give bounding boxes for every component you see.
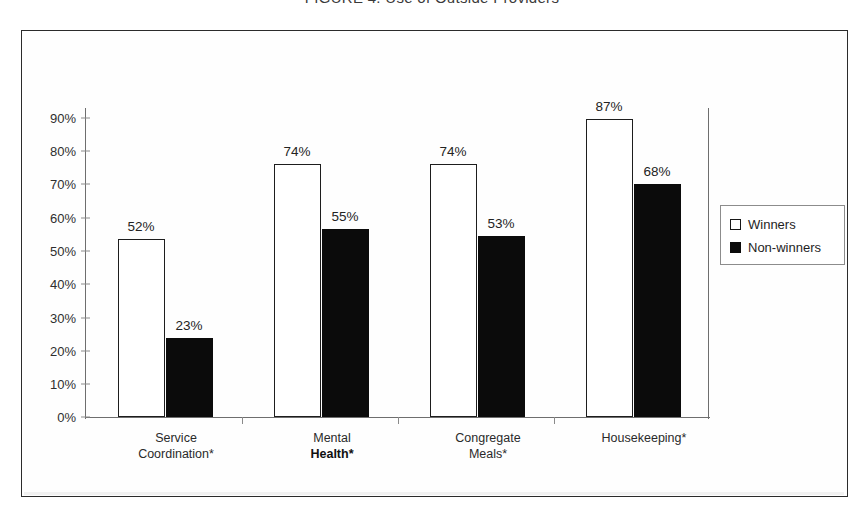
y-tick-label-30: 30% bbox=[30, 311, 76, 326]
y-tick-label-10: 10% bbox=[30, 377, 76, 392]
legend-label-nonwinners: Non-winners bbox=[748, 240, 821, 255]
bar-value-nonwinners-congregate-meals: 53% bbox=[466, 216, 536, 231]
bar-value-nonwinners-housekeeping: 68% bbox=[622, 164, 692, 179]
y-tick-label-50: 50% bbox=[30, 244, 76, 259]
bar-winners-mental-health[interactable] bbox=[274, 164, 321, 417]
y-tick-label-0: 0% bbox=[30, 410, 76, 425]
x-tick-mark-1 bbox=[242, 417, 243, 424]
y-tick-label-70: 70% bbox=[30, 177, 76, 192]
white-square-icon bbox=[730, 219, 741, 230]
figure-title: FIGURE 4. Use of Outside Providers bbox=[0, 0, 864, 6]
bar-value-winners-housekeeping: 87% bbox=[574, 99, 644, 114]
x-tick-mark-3 bbox=[554, 417, 555, 424]
x-category-label-line2: Meals* bbox=[398, 446, 578, 462]
x-category-label-line2: Health* bbox=[242, 446, 422, 462]
y-tick-label-90: 90% bbox=[30, 111, 76, 126]
y-tick-mark-90 bbox=[81, 118, 90, 119]
y-tick-label-40: 40% bbox=[30, 277, 76, 292]
chart-legend: Winners Non-winners bbox=[720, 205, 845, 265]
y-tick-mark-30 bbox=[81, 318, 90, 319]
x-category-label-line1: Service bbox=[86, 430, 266, 446]
bar-winners-congregate-meals[interactable] bbox=[430, 164, 477, 417]
scan-artifact bbox=[24, 492, 844, 495]
bar-nonwinners-mental-health[interactable] bbox=[322, 229, 369, 417]
x-tick-mark-2 bbox=[398, 417, 399, 424]
bar-value-winners-mental-health: 74% bbox=[262, 144, 332, 159]
x-category-label-line2: Coordination* bbox=[86, 446, 266, 462]
bar-value-winners-congregate-meals: 74% bbox=[418, 144, 488, 159]
y-tick-label-60: 60% bbox=[30, 211, 76, 226]
y-axis-line bbox=[85, 108, 86, 419]
x-category-label-housekeeping: Housekeeping* bbox=[554, 430, 734, 446]
y-tick-mark-40 bbox=[81, 284, 90, 285]
black-square-icon bbox=[730, 242, 741, 253]
bar-value-nonwinners-mental-health: 55% bbox=[310, 209, 380, 224]
y-tick-mark-20 bbox=[81, 351, 90, 352]
bar-nonwinners-service-coordination[interactable] bbox=[166, 338, 213, 417]
bar-value-winners-service-coordination: 52% bbox=[106, 219, 176, 234]
bar-nonwinners-housekeeping[interactable] bbox=[634, 184, 681, 417]
x-category-label-line1: Mental bbox=[242, 430, 422, 446]
x-category-label-mental-health: Mental Health* bbox=[242, 430, 422, 462]
bar-nonwinners-congregate-meals[interactable] bbox=[478, 236, 525, 417]
y-tick-mark-70 bbox=[81, 184, 90, 185]
x-category-label-service-coordination: Service Coordination* bbox=[86, 430, 266, 462]
x-category-label-line1: Housekeeping* bbox=[554, 430, 734, 446]
y-tick-label-80: 80% bbox=[30, 144, 76, 159]
x-category-label-congregate-meals: Congregate Meals* bbox=[398, 430, 578, 462]
y-tick-label-20: 20% bbox=[30, 344, 76, 359]
legend-item-winners[interactable]: Winners bbox=[730, 213, 844, 236]
x-category-label-line1: Congregate bbox=[398, 430, 578, 446]
y-tick-mark-10 bbox=[81, 384, 90, 385]
y-tick-mark-80 bbox=[81, 151, 90, 152]
y-tick-mark-50 bbox=[81, 251, 90, 252]
bar-value-nonwinners-service-coordination: 23% bbox=[154, 318, 224, 333]
y-tick-mark-60 bbox=[81, 218, 90, 219]
plot-right-border bbox=[708, 108, 709, 419]
legend-label-winners: Winners bbox=[748, 217, 796, 232]
y-tick-mark-0 bbox=[81, 417, 90, 418]
legend-item-nonwinners[interactable]: Non-winners bbox=[730, 236, 844, 259]
